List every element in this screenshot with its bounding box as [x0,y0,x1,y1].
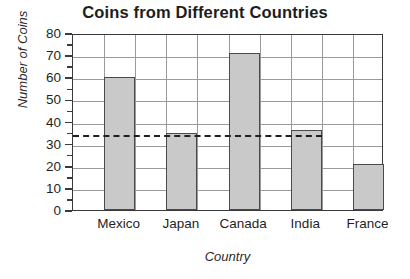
y-tick-70 [65,55,72,57]
y-tick-10 [65,188,72,190]
gridline-v-8 [322,35,323,210]
gridline-h-70 [73,57,382,58]
y-tick-50 [65,100,72,102]
y-tick-0 [65,210,72,212]
bar-india [291,130,322,210]
y-tick-label-70: 70 [46,49,61,63]
y-tick-60 [65,77,72,79]
mean-reference-line [73,135,322,137]
gridline-v-2 [135,35,136,210]
y-tick-20 [65,166,72,168]
x-tick-label-france: France [322,216,410,231]
bar-chart-figure: Coins from Different Countries Number of… [0,0,410,279]
y-minor-tick-75 [67,44,72,45]
bar-canada [229,53,260,210]
y-tick-label-60: 60 [46,71,61,85]
gridline-v-4 [197,35,198,210]
gridline-v-6 [260,35,261,210]
y-tick-30 [65,144,72,146]
y-minor-tick-35 [67,133,72,134]
y-tick-label-40: 40 [46,116,61,130]
y-minor-tick-45 [67,111,72,112]
y-minor-tick-65 [67,66,72,67]
y-tick-40 [65,122,72,124]
x-axis-title: Country [72,249,383,264]
y-tick-label-10: 10 [46,182,61,196]
bar-france [353,164,384,210]
chart-title: Coins from Different Countries [0,3,410,22]
y-tick-label-80: 80 [46,27,61,41]
y-minor-tick-25 [67,155,72,156]
plot-area [72,34,383,211]
y-tick-label-50: 50 [46,93,61,107]
y-minor-tick-15 [67,177,72,178]
y-axis-title: Number of Coins [15,0,30,140]
y-minor-tick-55 [67,89,72,90]
bar-japan [166,133,197,210]
y-tick-label-20: 20 [46,160,61,174]
y-minor-tick-5 [67,199,72,200]
y-tick-80 [65,33,72,35]
y-tick-label-30: 30 [46,138,61,152]
bar-mexico [104,77,135,210]
y-tick-label-0: 0 [53,204,61,218]
